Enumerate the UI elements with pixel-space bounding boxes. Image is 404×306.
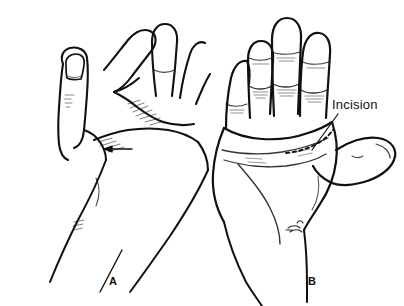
panel-b-middle-finger — [272, 18, 301, 116]
panel-b-little-pip-crease — [226, 104, 247, 106]
panel-a-little-finger — [196, 74, 210, 104]
panel-b-index-dip-crease — [249, 58, 272, 60]
panel-b-middle-dip-crease — [272, 52, 300, 54]
hand-incision-figure: Incision A B — [0, 0, 404, 306]
panel-b-thumb-outline — [330, 138, 395, 185]
panel-a-index-finger-lower — [114, 78, 139, 92]
panel-a-palm-lower-border — [94, 129, 198, 143]
panel-b-thumb-web-lower — [313, 166, 330, 182]
panel-a-thumb-shading — [64, 95, 74, 107]
panel-b-index-finger — [248, 41, 273, 118]
panel-b-little-finger — [226, 61, 247, 128]
panel-b-forearm-ulnar — [304, 230, 307, 302]
panel-b-ring-dip-crease — [303, 62, 329, 64]
panel-b-hypothenar-crease — [312, 176, 319, 210]
panel-b-ring-pip-crease — [301, 90, 327, 93]
panel-a-hypothenar-edge — [198, 142, 208, 170]
panel-b-thenar-crease — [238, 164, 280, 244]
panel-b-thumbnail-edge — [376, 144, 390, 158]
panel-b-palm-shading — [246, 149, 312, 167]
panel-b-thumb-ip-crease — [352, 156, 363, 158]
panel-a-middle-finger — [152, 24, 177, 96]
panel-b-forearm-radial — [224, 222, 262, 306]
panel-a-middle-finger-crease — [154, 70, 175, 72]
incision-label: Incision — [332, 98, 378, 111]
panel-a-index-finger — [104, 30, 156, 92]
panel-b-mcp-boundary — [224, 122, 332, 139]
panel-label-b: B — [308, 276, 316, 287]
panel-b-index-pip-crease — [249, 86, 272, 89]
artist-signature — [286, 221, 303, 232]
panel-b-ring-finger — [300, 33, 330, 118]
panel-b-middle-pip-crease — [273, 84, 299, 87]
panel-a-thumbnail-lunula — [68, 76, 81, 78]
panel-label-a: A — [109, 276, 117, 287]
panel-a-hand — [50, 24, 210, 292]
panel-a-forearm-ulnar — [130, 170, 208, 292]
panel-a-palm-outline — [114, 92, 194, 125]
panel-b-hand — [213, 18, 395, 306]
illustration-canvas — [0, 0, 404, 306]
panel-b-palm-radial-border — [213, 128, 224, 222]
